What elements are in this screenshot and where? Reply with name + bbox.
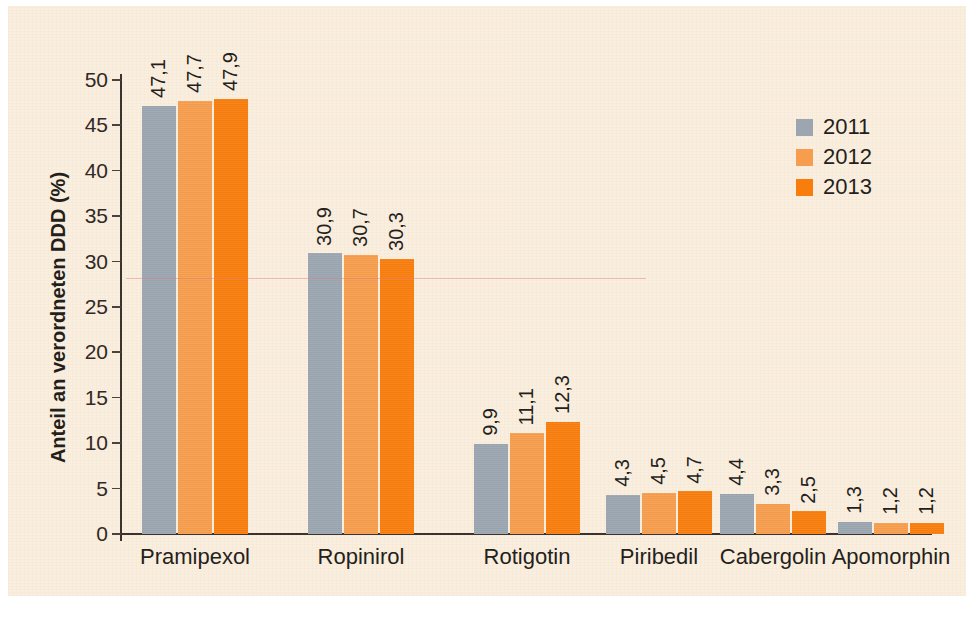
bar-value-label: 4,4: [726, 458, 746, 486]
bar-value-label: 47,7: [184, 54, 204, 93]
bar-value-label: 47,9: [220, 52, 240, 91]
bar-value-label: 2,5: [798, 476, 818, 504]
bar-rotigotin-2012: [510, 433, 544, 534]
x-axis-label-pramipexol: Pramipexol: [110, 546, 280, 568]
bar-value-label: 1,3: [844, 486, 864, 514]
bar-value-label: 1,2: [916, 487, 936, 515]
bar-cabergolin-2012: [756, 504, 790, 534]
legend-item-2012[interactable]: 2012: [796, 142, 916, 172]
bar-value-label: 1,2: [880, 487, 900, 515]
legend-item-label: 2012: [823, 146, 872, 168]
bar-value-label: 4,5: [648, 457, 668, 485]
bar-ropinirol-2012: [344, 255, 378, 534]
bar-value-label: 12,3: [552, 375, 572, 414]
x-axis-label-ropinirol: Ropinirol: [276, 546, 446, 568]
legend-item-label: 2011: [823, 116, 870, 138]
bar-ropinirol-2013: [380, 259, 414, 534]
bar-rotigotin-2011: [474, 444, 508, 534]
bar-pramipexol-2012: [178, 101, 212, 534]
legend-item-2013[interactable]: 2013: [796, 172, 916, 202]
bar-rotigotin-2013: [546, 422, 580, 534]
bars-layer: 47,147,747,930,930,730,39,911,112,34,34,…: [8, 6, 966, 534]
bar-pramipexol-2013: [214, 99, 248, 534]
bar-apomorphin-2013: [910, 523, 944, 534]
chart-legend: 201120122013: [796, 112, 916, 202]
bar-ropinirol-2011: [308, 253, 342, 534]
bar-value-label: 47,1: [148, 59, 168, 98]
bar-value-label: 30,9: [314, 207, 334, 246]
legend-swatch-icon: [796, 179, 813, 196]
bar-value-label: 9,9: [480, 408, 500, 436]
legend-item-label: 2013: [823, 176, 872, 198]
bar-value-label: 4,3: [612, 459, 632, 487]
bar-value-label: 4,7: [684, 456, 704, 484]
y-axis-title: Anteil an verordneten DDD (%): [47, 108, 70, 528]
x-axis-label-apomorphin: Apomorphin: [806, 546, 966, 568]
y-axis-tick-label-wrap: 0: [56, 534, 108, 535]
chart-figure: 05101520253035404550 47,147,747,930,930,…: [8, 6, 966, 596]
plot-area: 05101520253035404550 47,147,747,930,930,…: [8, 6, 966, 596]
legend-swatch-icon: [796, 149, 813, 166]
bar-value-label: 30,3: [386, 212, 406, 251]
bar-apomorphin-2011: [838, 522, 872, 534]
bar-pramipexol-2011: [142, 106, 176, 534]
bar-value-label: 30,7: [350, 208, 370, 247]
bar-piribedil-2012: [642, 493, 676, 534]
legend-item-2011[interactable]: 2011: [796, 112, 916, 142]
bar-apomorphin-2012: [874, 523, 908, 534]
bar-piribedil-2011: [606, 495, 640, 534]
bar-cabergolin-2013: [792, 511, 826, 534]
bar-cabergolin-2011: [720, 494, 754, 534]
bar-piribedil-2013: [678, 491, 712, 534]
legend-swatch-icon: [796, 119, 813, 136]
bar-value-label: 11,1: [516, 388, 536, 425]
bar-value-label: 3,3: [762, 468, 782, 496]
